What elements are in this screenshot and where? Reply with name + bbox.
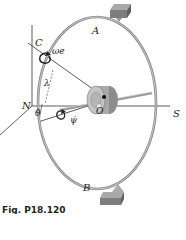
label-psi: ψ̇ — [70, 116, 77, 125]
label-omega-e: ωe — [52, 47, 65, 56]
center-point-O — [102, 95, 106, 99]
figure-caption: Fig. P18.120 — [2, 206, 66, 214]
label-O: O — [96, 107, 103, 116]
label-S: S — [173, 109, 180, 119]
label-lambda: λ — [44, 79, 50, 88]
label-theta: θ — [35, 109, 40, 118]
label-A: A — [92, 26, 99, 36]
label-C: C — [35, 38, 43, 48]
label-B: B — [83, 183, 90, 193]
label-N: N — [22, 101, 31, 111]
